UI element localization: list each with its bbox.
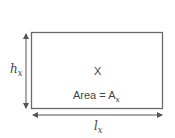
- rectangle-diagram: [0, 0, 175, 138]
- length-label-subscript: x: [98, 125, 103, 135]
- shape-name-label: X: [94, 65, 101, 77]
- area-label-subscript: x: [116, 95, 120, 104]
- height-label-subscript: x: [18, 68, 23, 78]
- area-label: Area = Ax: [73, 89, 120, 104]
- area-label-text: Area = A: [73, 89, 116, 101]
- length-label: lx: [94, 119, 103, 135]
- height-label-text: h: [10, 62, 18, 76]
- height-label: hx: [10, 62, 22, 78]
